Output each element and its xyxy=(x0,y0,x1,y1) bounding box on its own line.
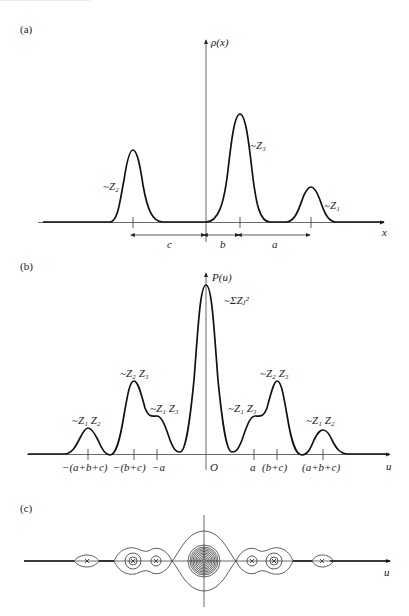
x-axis-label: u xyxy=(386,460,392,472)
patterson-curve xyxy=(28,285,389,455)
dimension-c-label: c xyxy=(167,238,172,250)
peak-label: ~Z₁ Z₂ xyxy=(306,414,335,426)
panel-b: (b) P(u) u ~ΣZⱼ² −(a+b+c) −(b+c) −a O a … xyxy=(20,260,392,474)
peak-label: ~Z₂ Z₃ xyxy=(260,367,289,379)
tick-label: (a+b+c) xyxy=(302,461,340,474)
tick-label: (b+c) xyxy=(262,461,287,474)
tick-label: −(b+c) xyxy=(113,461,146,474)
tick-label: a xyxy=(250,461,256,473)
x-axis-label: x xyxy=(381,226,387,238)
dimension-b-label: b xyxy=(220,238,226,250)
peak-label: ~Z₁ Z₃ xyxy=(228,402,257,414)
panel-a: (a) ρ(x) x c b a ~Z₂ ~Z₃ ~Z₁ xyxy=(20,23,387,250)
figure: (a) ρ(x) x c b a ~Z₂ ~Z₃ ~Z₁ (b) P(u) u … xyxy=(0,0,409,616)
origin-peak-label: ~ΣZⱼ² xyxy=(224,294,250,306)
tick-label: −(a+b+c) xyxy=(62,461,108,474)
peak-label-z2: ~Z₂ xyxy=(103,180,119,192)
tick-label-origin: O xyxy=(210,461,218,473)
peak-label: ~Z₂ Z₃ xyxy=(120,367,149,379)
x-axis-label: u xyxy=(384,566,390,578)
peak-label: ~Z₁ Z₂ xyxy=(72,414,101,426)
y-axis-label: ρ(x) xyxy=(210,36,229,49)
peak-label-z1: ~Z₁ xyxy=(324,199,340,211)
panel-a-label: (a) xyxy=(20,23,33,36)
panel-c: (c) u xyxy=(20,502,390,607)
panel-c-label: (c) xyxy=(20,502,33,515)
tick-label: −a xyxy=(152,461,165,473)
peak-label-z3: ~Z₃ xyxy=(250,139,266,151)
dimension-a-label: a xyxy=(272,238,278,250)
peak-label: ~Z₁ Z₃ xyxy=(150,402,179,414)
y-axis-label: P(u) xyxy=(211,271,232,284)
panel-b-label: (b) xyxy=(20,260,33,273)
